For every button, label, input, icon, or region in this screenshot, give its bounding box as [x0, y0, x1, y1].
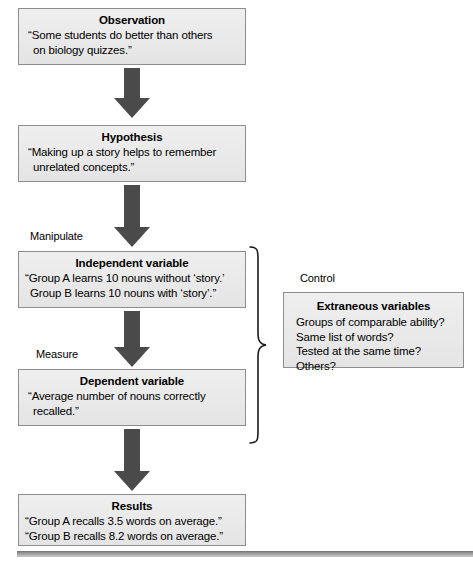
label-control: Control: [300, 272, 335, 284]
list-item: Others?: [296, 359, 463, 374]
step-body-independent-variable: “Group A learns 10 nouns without ‘story.…: [19, 271, 245, 300]
list-item: Same list of words?: [296, 330, 463, 345]
flow-arrow-down-4: [114, 429, 150, 491]
step-line: “Some students do better than others: [28, 28, 240, 43]
step-title-dependent-variable: Dependent variable: [19, 374, 245, 389]
step-line: Group B learns 10 nouns with ‘story’.”: [25, 286, 240, 301]
step-title-hypothesis: Hypothesis: [19, 130, 245, 145]
list-item: Groups of comparable ability?: [296, 315, 463, 330]
step-body-dependent-variable: “Average number of nouns correctly recal…: [19, 389, 245, 418]
flow-arrow-down-1: [114, 68, 150, 118]
step-line: on biology quizzes.”: [28, 43, 240, 58]
flowchart-canvas: Observation “Some students do better tha…: [0, 0, 473, 564]
extraneous-variables-list: Groups of comparable ability? Same list …: [284, 315, 463, 373]
step-title-independent-variable: Independent variable: [19, 256, 245, 271]
grouping-brace: [246, 245, 268, 445]
step-title-results: Results: [19, 499, 245, 514]
step-line: “Group A learns 10 nouns without ‘story.…: [25, 271, 240, 286]
flow-arrow-down-3: [114, 311, 150, 367]
bottom-rule: [17, 551, 473, 557]
step-line: unrelated concepts.”: [28, 160, 240, 175]
step-title-observation: Observation: [19, 13, 245, 28]
label-measure: Measure: [36, 348, 78, 360]
step-box-hypothesis: Hypothesis “Making up a story helps to r…: [18, 125, 246, 182]
list-item: Tested at the same time?: [296, 344, 463, 359]
step-line: “Making up a story helps to remember: [28, 145, 240, 160]
step-box-results: Results “Group A recalls 3.5 words on av…: [18, 494, 246, 546]
step-body-results: “Group A recalls 3.5 words on average.” …: [19, 514, 245, 543]
step-box-observation: Observation “Some students do better tha…: [18, 8, 246, 65]
step-line: “Group A recalls 3.5 words on average.”: [25, 514, 240, 529]
extraneous-variables-title: Extraneous variables: [284, 299, 463, 315]
label-manipulate: Manipulate: [30, 230, 83, 242]
step-body-observation: “Some students do better than others on …: [19, 28, 245, 57]
step-line: recalled.”: [28, 404, 240, 419]
extraneous-variables-box: Extraneous variables Groups of comparabl…: [283, 292, 464, 368]
step-box-independent-variable: Independent variable “Group A learns 10 …: [18, 251, 246, 308]
flow-arrow-down-2: [114, 185, 150, 247]
step-body-hypothesis: “Making up a story helps to remember unr…: [19, 145, 245, 174]
step-line: “Average number of nouns correctly: [28, 389, 240, 404]
step-box-dependent-variable: Dependent variable “Average number of no…: [18, 369, 246, 426]
step-line: “Group B recalls 8.2 words on average.”: [25, 529, 240, 544]
